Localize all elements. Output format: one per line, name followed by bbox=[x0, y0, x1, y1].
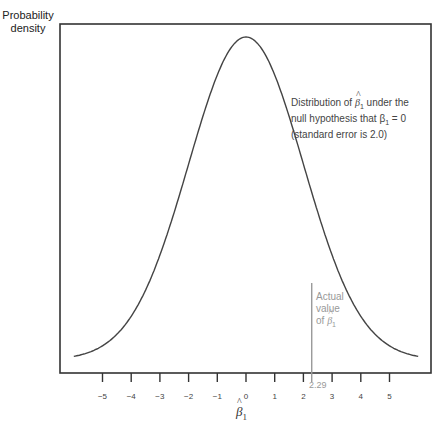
actual-line-3: of β1 bbox=[316, 315, 356, 331]
x-tick-label: −1 bbox=[213, 392, 223, 401]
x-axis-tick-labels: −5−4−3−2−1012345 bbox=[98, 392, 392, 401]
x-tick-label: 2 bbox=[301, 392, 306, 401]
annotation-line-2: null hypothesis that β1 = 0 bbox=[291, 113, 440, 129]
x-tick-label: 4 bbox=[359, 392, 364, 401]
x-tick-label: 0 bbox=[244, 392, 249, 401]
plot-frame bbox=[60, 24, 431, 373]
x-tick-label: 1 bbox=[272, 392, 277, 401]
null-distribution-annotation: Distribution of β1 under the null hypoth… bbox=[291, 97, 440, 141]
x-tick-label: 3 bbox=[330, 392, 335, 401]
chart-canvas: −5−4−3−2−1012345 2.29 bbox=[0, 0, 440, 432]
x-axis-ticks bbox=[103, 373, 390, 382]
x-axis-label: β1 bbox=[236, 404, 247, 422]
x-tick-label: −3 bbox=[155, 392, 165, 401]
x-tick-label: 5 bbox=[387, 392, 392, 401]
annotation-line-3: (standard error is 2.0) bbox=[291, 129, 440, 141]
actual-line-1: Actual bbox=[316, 291, 356, 303]
actual-value-annotation: Actual value of β1 bbox=[316, 291, 356, 331]
x-tick-label: −2 bbox=[184, 392, 194, 401]
normal-density-curve bbox=[74, 37, 418, 356]
annotation-line-1: Distribution of β1 under the bbox=[291, 97, 440, 113]
x-tick-label: −4 bbox=[127, 392, 137, 401]
actual-value-label: 2.29 bbox=[309, 380, 327, 390]
actual-line-2: value bbox=[316, 303, 356, 315]
x-tick-label: −5 bbox=[98, 392, 108, 401]
